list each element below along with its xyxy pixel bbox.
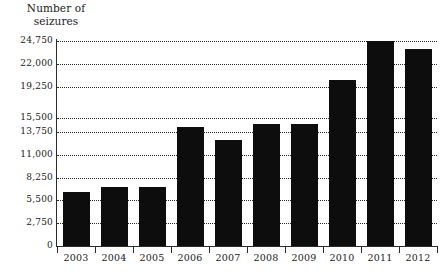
bar[interactable] xyxy=(291,124,318,246)
x-axis-tick xyxy=(57,246,58,253)
x-axis-tick-label: 2008 xyxy=(246,252,286,263)
x-axis-tick xyxy=(437,246,438,253)
x-axis-tick-label: 2007 xyxy=(208,252,248,263)
y-axis-tick-label: 13,750 xyxy=(3,127,53,136)
y-axis-tick-label: 5,500 xyxy=(3,195,53,204)
bars-layer xyxy=(57,41,438,246)
bar[interactable] xyxy=(367,41,394,246)
y-axis-tick-label: 0 xyxy=(3,241,53,250)
bar[interactable] xyxy=(405,49,432,246)
bar[interactable] xyxy=(253,124,280,246)
bar-chart: Number of seizures 02,7505,5008,25011,00… xyxy=(0,0,442,276)
y-axis-tick-labels: 02,7505,5008,25011,00013,75015,50019,250… xyxy=(0,0,53,276)
bar[interactable] xyxy=(101,187,128,246)
x-axis-tick-label: 2006 xyxy=(170,252,210,263)
x-axis-tick-label: 2012 xyxy=(398,252,438,263)
bar[interactable] xyxy=(215,140,242,246)
y-axis-tick-label: 11,000 xyxy=(3,150,53,159)
y-axis-tick-label: 2,750 xyxy=(3,218,53,227)
bar[interactable] xyxy=(177,127,204,246)
bar[interactable] xyxy=(63,192,90,246)
y-axis-tick-label: 19,250 xyxy=(3,82,53,91)
x-axis-tick-label: 2003 xyxy=(56,252,96,263)
y-axis-tick-label: 24,750 xyxy=(3,36,53,45)
bar[interactable] xyxy=(329,80,356,246)
y-axis-tick-label: 15,500 xyxy=(3,113,53,122)
x-axis-tick-label: 2011 xyxy=(360,252,400,263)
y-axis-tick-label: 22,000 xyxy=(3,59,53,68)
x-axis-tick-label: 2009 xyxy=(284,252,324,263)
bar[interactable] xyxy=(139,187,166,246)
x-axis-tick-label: 2010 xyxy=(322,252,362,263)
x-axis-tick-label: 2005 xyxy=(132,252,172,263)
y-axis-tick-label: 8,250 xyxy=(3,173,53,182)
x-axis-tick-label: 2004 xyxy=(94,252,134,263)
